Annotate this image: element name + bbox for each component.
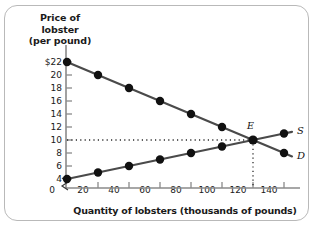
supply-point [94, 168, 102, 176]
supply-curve-label: S [297, 125, 304, 136]
supply-point [156, 155, 164, 163]
supply-point [187, 149, 195, 157]
demand-point [94, 71, 102, 79]
equilibrium-point [248, 135, 257, 144]
plot-area [0, 0, 319, 233]
x-axis-ticks [98, 182, 284, 188]
demand-point [218, 123, 226, 131]
demand-point [156, 97, 164, 105]
demand-point [125, 84, 133, 92]
y-axis-ticks [66, 62, 72, 179]
supply-point [280, 129, 288, 137]
equilibrium-label: E [247, 120, 254, 131]
demand-curve-label: D [297, 150, 305, 161]
x-axis-title: Quantity of lobsters (thousands of pound… [60, 205, 310, 216]
supply-point [218, 142, 226, 150]
supply-point [63, 175, 71, 183]
demand-point [187, 110, 195, 118]
demand-point [280, 149, 288, 157]
demand-point [63, 58, 71, 66]
supply-point [125, 162, 133, 170]
figure-container: Price of lobster (per pound) $22 20 18 1… [0, 0, 319, 233]
